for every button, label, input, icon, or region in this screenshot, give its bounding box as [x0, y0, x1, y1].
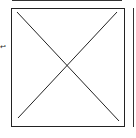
- image-placeholder: [11, 8, 125, 127]
- arrow-glyph-icon: ↩: [0, 44, 6, 51]
- placeholder-cross-icon: [12, 9, 124, 126]
- vertical-divider: [133, 8, 134, 127]
- top-border-line: [12, 0, 122, 1]
